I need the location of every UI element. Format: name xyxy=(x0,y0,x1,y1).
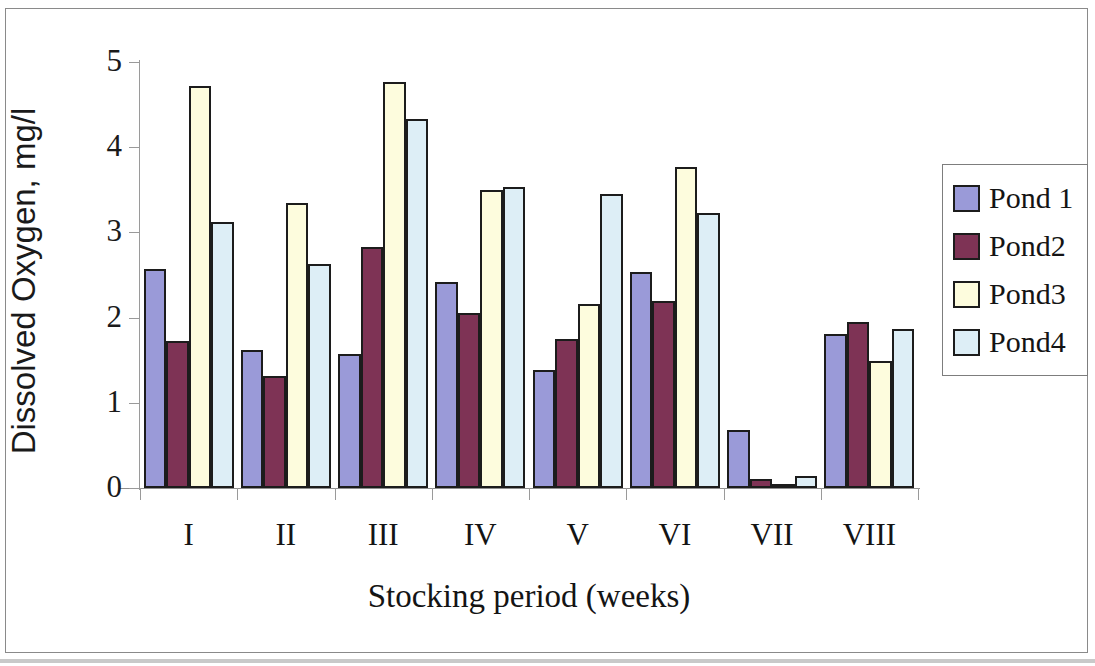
x-axis-category-label: II xyxy=(237,518,334,552)
x-axis-category-label: III xyxy=(335,518,432,552)
bar xyxy=(435,282,458,488)
x-axis-line xyxy=(120,488,920,489)
bar xyxy=(795,476,818,488)
bar xyxy=(555,339,578,488)
bar xyxy=(824,334,847,488)
bar xyxy=(600,194,623,488)
legend-label: Pond2 xyxy=(989,231,1066,261)
x-axis-tick xyxy=(529,488,530,500)
legend-swatch-icon xyxy=(953,329,980,356)
bar xyxy=(338,354,361,488)
bar xyxy=(308,264,331,488)
bar xyxy=(697,213,720,488)
y-axis-tick-label: 4 xyxy=(92,130,122,161)
bar xyxy=(480,190,503,488)
x-axis-tick xyxy=(626,488,627,500)
y-axis-tick xyxy=(129,403,140,404)
legend-item: Pond 1 xyxy=(953,174,1081,222)
x-axis-category-label: VI xyxy=(626,518,723,552)
bar xyxy=(361,247,384,488)
bar xyxy=(892,329,915,488)
x-axis-tick xyxy=(918,488,919,500)
bar xyxy=(286,203,309,488)
y-axis-title: Dissolved Oxygen, mg/l xyxy=(5,46,43,516)
y-axis-tick-label: 3 xyxy=(92,215,122,246)
legend-swatch-icon xyxy=(953,233,980,260)
bar xyxy=(652,301,675,488)
x-axis-tick xyxy=(821,488,822,500)
bar xyxy=(458,313,481,488)
bar xyxy=(503,187,526,488)
bars-layer xyxy=(140,62,918,488)
bar xyxy=(241,350,264,488)
x-axis-category-label: V xyxy=(529,518,626,552)
y-axis-tick-label: 5 xyxy=(92,45,122,76)
y-axis-tick-label: 1 xyxy=(92,386,122,417)
bar xyxy=(263,376,286,488)
legend-swatch-icon xyxy=(953,281,980,308)
legend-item: Pond2 xyxy=(953,222,1081,270)
legend-item: Pond3 xyxy=(953,270,1081,318)
x-axis-category-label: VIII xyxy=(821,518,918,552)
y-axis-tick xyxy=(129,147,140,148)
bar xyxy=(869,361,892,488)
bar xyxy=(144,269,167,488)
bar xyxy=(675,167,698,488)
bar xyxy=(383,82,406,488)
x-axis-category-label: VII xyxy=(724,518,821,552)
x-axis-category-label: IV xyxy=(432,518,529,552)
legend-label: Pond3 xyxy=(989,279,1066,309)
x-axis-tick xyxy=(237,488,238,500)
legend-swatch-icon xyxy=(953,185,980,212)
y-axis-tick xyxy=(129,232,140,233)
legend: Pond 1Pond2Pond3Pond4 xyxy=(942,164,1088,376)
x-axis-title: Stocking period (weeks) xyxy=(140,578,918,615)
x-axis-tick xyxy=(140,488,141,500)
chart-figure: 012345 IIIIIIIVVVIVIIVIII Dissolved Oxyg… xyxy=(0,0,1095,666)
bar xyxy=(189,86,212,488)
y-axis-tick-label: 0 xyxy=(92,471,122,502)
y-axis-tick xyxy=(129,318,140,319)
bar xyxy=(727,430,750,488)
x-axis-tick xyxy=(335,488,336,500)
legend-label: Pond4 xyxy=(989,327,1066,357)
scan-bottom-edge xyxy=(0,659,1095,663)
y-axis-tick-label: 2 xyxy=(92,301,122,332)
bar xyxy=(750,479,773,488)
legend-item: Pond4 xyxy=(953,318,1081,366)
bar xyxy=(847,322,870,488)
legend-label: Pond 1 xyxy=(989,183,1073,213)
bar xyxy=(166,341,189,488)
bar xyxy=(772,484,795,488)
x-axis-category-label: I xyxy=(140,518,237,552)
bar xyxy=(630,272,653,488)
y-axis-tick xyxy=(129,488,140,489)
bar xyxy=(578,304,601,488)
x-axis-tick xyxy=(432,488,433,500)
y-axis-tick xyxy=(129,62,140,63)
bar xyxy=(406,119,429,488)
x-axis-tick xyxy=(724,488,725,500)
bar xyxy=(533,370,556,488)
bar xyxy=(211,222,234,488)
